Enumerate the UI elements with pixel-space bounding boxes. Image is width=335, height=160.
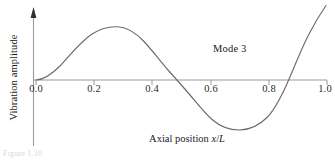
mode-shape-curve (36, 6, 326, 131)
x-tick-label-3: 0.6 (197, 83, 225, 95)
vibration-mode-figure: 0.0 0.2 0.4 0.6 0.8 1.0 Vibration amplit… (0, 0, 335, 160)
mode-annotation-label: Mode 3 (213, 43, 247, 54)
figure-caption: Figure 1.10 (3, 149, 42, 158)
x-axis-title: Axial position x/L (112, 133, 262, 144)
x-tick-label-0: 0.0 (22, 83, 50, 95)
y-axis-title: Vibration amplitude (8, 13, 19, 143)
x-tick-label-4: 0.8 (255, 83, 283, 95)
y-axis-arrowhead-icon (31, 7, 37, 18)
x-axis-title-var-l: L (219, 133, 225, 144)
x-tick-label-5: 1.0 (311, 83, 335, 95)
x-axis-title-prefix: Axial position (149, 133, 211, 144)
x-tick-label-1: 0.2 (80, 83, 108, 95)
x-tick-label-2: 0.4 (138, 83, 166, 95)
